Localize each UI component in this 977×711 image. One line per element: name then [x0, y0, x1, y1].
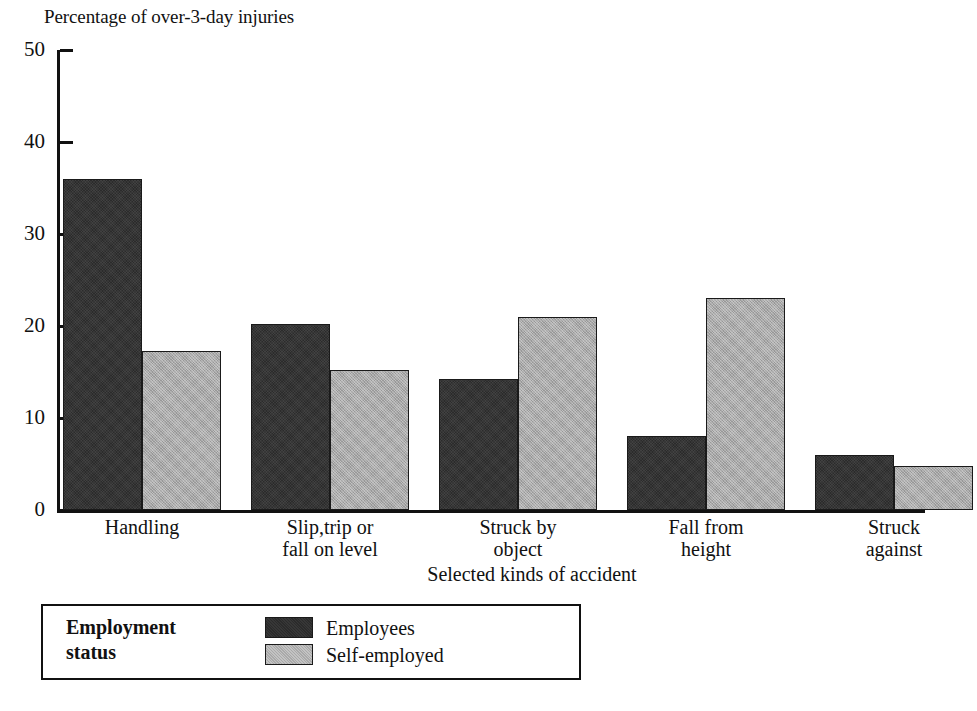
x-axis-title-text: Selected kinds of accident: [427, 563, 636, 585]
bar-employees-1[interactable]: [63, 179, 142, 510]
bar-employees-3[interactable]: [439, 379, 518, 510]
y-axis-tick-label-30: 30: [24, 223, 45, 244]
x-axis-label-2: Slip,trip or fall on level: [229, 516, 431, 561]
x-axis-line: [57, 510, 925, 513]
legend-label-self-employed: Self-employed: [326, 645, 444, 665]
bar-employees-4[interactable]: [627, 436, 706, 510]
legend-item-employees[interactable]: Employees: [265, 617, 415, 638]
y-axis-tick-label-50: 50: [24, 39, 45, 60]
y-axis-line: [57, 50, 60, 510]
legend-swatch-employees-icon: [265, 617, 313, 638]
bar-self-employed-3[interactable]: [518, 317, 597, 510]
x-axis-label-5: Struck against: [793, 516, 977, 561]
legend-title: Employment status: [66, 615, 176, 665]
bar-employees-5[interactable]: [815, 455, 894, 510]
y-axis-tick-label-20: 20: [24, 315, 45, 336]
legend-item-self-employed[interactable]: Self-employed: [265, 644, 444, 665]
x-axis-label-1: Handling: [41, 516, 243, 538]
bar-self-employed-5[interactable]: [894, 466, 973, 510]
bar-employees-2[interactable]: [251, 324, 330, 510]
bar-self-employed-1[interactable]: [142, 351, 221, 510]
y-axis-tick-label-10: 10: [24, 407, 45, 428]
legend: Employment status Employees Self-employe…: [41, 604, 581, 680]
legend-label-employees: Employees: [326, 618, 415, 638]
x-axis-label-4: Fall from height: [605, 516, 807, 561]
x-axis-title: Selected kinds of accident: [0, 563, 948, 586]
x-axis-label-3: Struck by object: [417, 516, 619, 561]
bar-self-employed-4[interactable]: [706, 298, 785, 510]
plot-area: 01020304050 HandlingSlip,trip or fall on…: [57, 50, 922, 510]
y-axis-tick-labels: 01020304050: [0, 50, 57, 510]
y-axis-tick-40: [60, 141, 73, 144]
y-axis-title: Percentage of over-3-day injuries: [44, 6, 294, 28]
bar-self-employed-2[interactable]: [330, 370, 409, 510]
y-axis-tick-label-40: 40: [24, 131, 45, 152]
legend-swatch-self-employed-icon: [265, 644, 313, 665]
y-axis-tick-50: [60, 49, 73, 52]
